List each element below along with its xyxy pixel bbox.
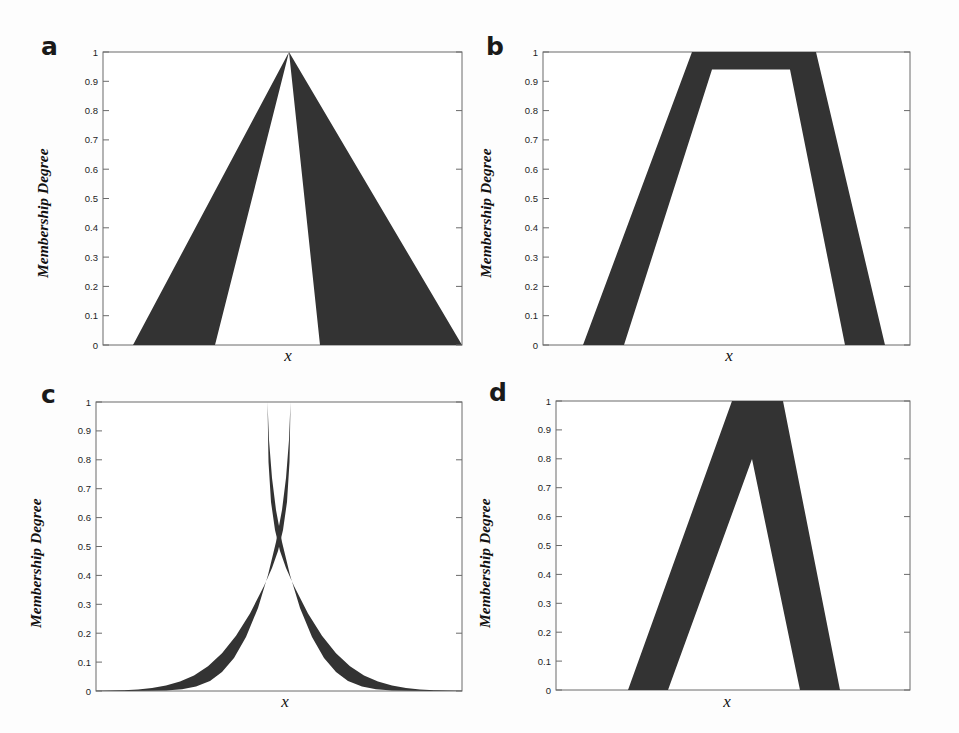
ytick-0.3: 0.3	[538, 598, 551, 609]
ytick-0.2: 0.2	[85, 281, 98, 292]
ytick-1: 1	[546, 396, 551, 407]
ytick-0.2: 0.2	[538, 627, 551, 638]
ytick-0.4: 0.4	[538, 569, 551, 580]
ytick-0: 0	[86, 686, 91, 697]
ytick-0.4: 0.4	[78, 570, 91, 581]
ytick-0.7: 0.7	[525, 134, 538, 145]
panel-b-ytick-labels: 0 0.1 0.2 0.3 0.4 0.5 0.6 0.7 0.8 0.9 1	[525, 47, 538, 351]
ytick-0.2: 0.2	[78, 628, 91, 639]
ytick-0.8: 0.8	[78, 454, 91, 465]
ytick-1: 1	[533, 47, 538, 58]
panel-d-plot: 0 0.1 0.2 0.3 0.4 0.5 0.6 0.7 0.8 0.9 1	[480, 370, 959, 733]
ytick-0.9: 0.9	[85, 76, 98, 87]
ytick-0.1: 0.1	[85, 310, 98, 321]
ytick-0.1: 0.1	[78, 657, 91, 668]
ytick-0.4: 0.4	[85, 222, 98, 233]
ytick-0.9: 0.9	[538, 424, 551, 435]
panel-a-ytick-labels: 0 0.1 0.2 0.3 0.4 0.5 0.6 0.7 0.8 0.9 1	[85, 47, 98, 351]
ytick-0.6: 0.6	[525, 164, 538, 175]
ytick-0: 0	[546, 685, 551, 696]
ytick-1: 1	[93, 47, 98, 58]
ytick-0.8: 0.8	[538, 453, 551, 464]
ytick-0.6: 0.6	[78, 512, 91, 523]
ytick-0.1: 0.1	[538, 656, 551, 667]
ytick-0.9: 0.9	[78, 425, 91, 436]
ytick-0.7: 0.7	[85, 134, 98, 145]
panel-c-ytick-labels: 0 0.1 0.2 0.3 0.4 0.5 0.6 0.7 0.8 0.9 1	[78, 397, 91, 697]
ytick-0: 0	[533, 340, 538, 351]
ytick-0.8: 0.8	[85, 105, 98, 116]
ytick-0.6: 0.6	[85, 164, 98, 175]
ytick-0.4: 0.4	[525, 222, 538, 233]
panel-d: d Membership Degree x	[480, 370, 959, 733]
ytick-0.6: 0.6	[538, 511, 551, 522]
ytick-0.5: 0.5	[85, 193, 98, 204]
panel-b-plot: 0 0.1 0.2 0.3 0.4 0.5 0.6 0.7 0.8 0.9 1	[480, 0, 959, 370]
panel-a-plot: 0 0.1 0.2 0.3 0.4 0.5 0.6 0.7 0.8 0.9 1	[0, 0, 480, 370]
ytick-0.9: 0.9	[525, 76, 538, 87]
panel-a: a Membership Degree x	[0, 0, 480, 370]
panel-c-plot: 0 0.1 0.2 0.3 0.4 0.5 0.6 0.7 0.8 0.9 1	[0, 370, 480, 733]
ytick-1: 1	[86, 397, 91, 408]
ytick-0.3: 0.3	[85, 252, 98, 263]
ytick-0.7: 0.7	[538, 482, 551, 493]
panel-d-ytick-labels: 0 0.1 0.2 0.3 0.4 0.5 0.6 0.7 0.8 0.9 1	[538, 396, 551, 696]
figure-container: a Membership Degree x	[0, 0, 959, 733]
ytick-0.2: 0.2	[525, 281, 538, 292]
ytick-0.3: 0.3	[78, 599, 91, 610]
panel-c: c Membership Degree x	[0, 370, 480, 733]
ytick-0.5: 0.5	[78, 541, 91, 552]
panel-b: b Membership Degree x	[480, 0, 959, 370]
ytick-0: 0	[93, 340, 98, 351]
ytick-0.1: 0.1	[525, 310, 538, 321]
ytick-0.8: 0.8	[525, 105, 538, 116]
ytick-0.5: 0.5	[538, 540, 551, 551]
ytick-0.5: 0.5	[525, 193, 538, 204]
ytick-0.7: 0.7	[78, 483, 91, 494]
ytick-0.3: 0.3	[525, 252, 538, 263]
